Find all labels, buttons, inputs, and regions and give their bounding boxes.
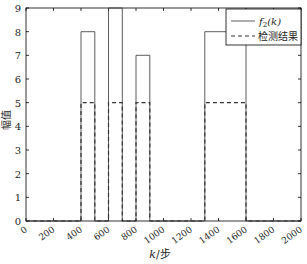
x-tick-label: 400 [64, 224, 84, 242]
x-axis-label: k/步 [149, 248, 170, 261]
legend-item-detection: 检测结果 [258, 30, 298, 42]
x-tick-label: 2000 [280, 224, 305, 245]
x-tick-label: 1200 [170, 224, 195, 245]
x-tick-label: 1400 [197, 224, 222, 245]
chart: 0123456789 02004006008001000120014001600… [0, 0, 307, 264]
y-tick-labels: 0123456789 [15, 3, 21, 227]
y-tick-label: 8 [15, 27, 21, 38]
x-tick-label: 200 [37, 224, 57, 242]
x-tick-label: 600 [92, 224, 112, 242]
y-tick-label: 5 [15, 98, 21, 109]
y-tick-label: 3 [15, 145, 21, 156]
x-tick-label: 1000 [142, 224, 167, 245]
x-tick-label: 800 [119, 224, 139, 242]
x-tick-label: 1600 [225, 224, 250, 245]
x-tick-labels: 0200400600800100012001400160018002000 [19, 224, 305, 245]
y-tick-label: 7 [15, 50, 21, 61]
x-tick-label: 0 [19, 224, 30, 236]
y-axis-label: 幅值 [0, 110, 12, 130]
y-tick-label: 4 [15, 121, 21, 132]
y-tick-label: 2 [15, 169, 21, 180]
y-tick-label: 0 [15, 216, 21, 227]
legend: f2(k) 检测结果 [226, 9, 301, 45]
y-tick-label: 6 [15, 74, 21, 85]
y-tick-label: 1 [15, 192, 21, 203]
y-tick-label: 9 [15, 3, 21, 14]
x-tick-label: 1800 [252, 224, 277, 245]
